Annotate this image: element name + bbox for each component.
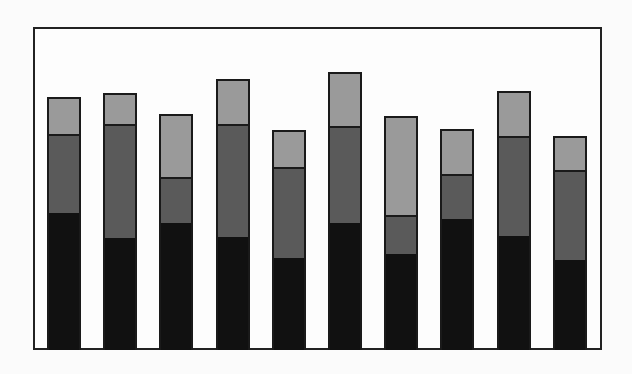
bar-7	[384, 116, 418, 350]
bar-8	[440, 129, 474, 350]
middle-segment	[555, 172, 585, 260]
bar-1	[47, 97, 81, 350]
middle-segment	[49, 136, 79, 213]
middle-segment	[161, 179, 191, 223]
bottom-segment	[161, 223, 191, 350]
middle-segment	[274, 169, 304, 258]
bottom-segment	[105, 238, 135, 350]
bar-2	[103, 93, 137, 350]
middle-segment	[499, 138, 529, 236]
bar-6	[328, 72, 362, 350]
bar-10	[553, 136, 587, 350]
bar-5	[272, 130, 306, 350]
chart-frame	[33, 27, 602, 350]
top-segment	[218, 81, 248, 126]
middle-segment	[105, 126, 135, 238]
top-segment	[442, 131, 472, 176]
bottom-segment	[555, 260, 585, 350]
bottom-segment	[386, 254, 416, 350]
top-segment	[499, 93, 529, 138]
top-segment	[386, 118, 416, 217]
middle-segment	[442, 176, 472, 220]
bottom-segment	[442, 219, 472, 350]
bar-3	[159, 114, 193, 350]
bar-9	[497, 91, 531, 350]
top-segment	[274, 132, 304, 169]
bottom-segment	[330, 223, 360, 350]
top-segment	[105, 95, 135, 126]
middle-segment	[386, 217, 416, 254]
bottom-segment	[274, 258, 304, 350]
top-segment	[330, 74, 360, 128]
middle-segment	[218, 126, 248, 237]
bottom-segment	[499, 236, 529, 350]
top-segment	[161, 116, 191, 179]
bottom-segment	[49, 213, 79, 350]
top-segment	[555, 138, 585, 172]
bar-4	[216, 79, 250, 350]
top-segment	[49, 99, 79, 136]
middle-segment	[330, 128, 360, 223]
bottom-segment	[218, 237, 248, 350]
